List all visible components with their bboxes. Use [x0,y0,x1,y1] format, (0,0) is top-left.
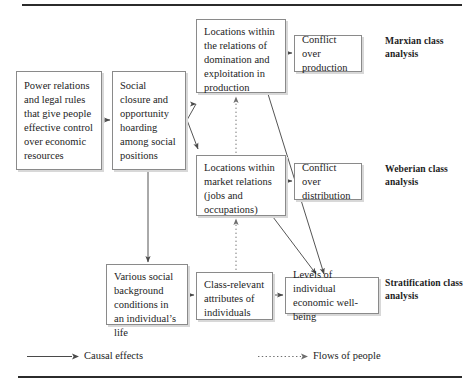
legend-label-flows-of-people: Flows of people [313,349,381,363]
bottom-divider [18,376,462,378]
box-conflict-over-production: Conflict over production [294,35,362,72]
box-conflict-over-distribution: Conflict over distribution [294,163,362,200]
arrow-closure-to-production [187,104,196,120]
legend-label-causal-effects: Causal effects [84,349,143,363]
box-locations-production: Locations within the relations of domina… [196,19,286,93]
box-class-relevant-attributes: Class-relevant attributes of individuals [196,272,273,320]
box-power-relations: Power relations and legal rules that giv… [16,71,102,170]
arrow-market-to-wellbeing [273,217,316,274]
arrow-closure-to-market [187,120,198,149]
side-label-marxian: Marxian class analysis [385,35,465,60]
legend-causal-arrow [27,352,81,361]
box-levels-of-wellbeing: Levels of individual economic well-being [285,277,379,314]
legend-flows-arrow [258,352,310,361]
box-locations-market: Locations within market relations (jobs … [196,155,286,216]
box-social-closure: Social closure and opportunity hoarding … [112,71,186,170]
figure-container: Power relations and legal rules that giv… [0,0,468,391]
side-label-weberian: Weberian class analysis [385,163,465,188]
side-label-stratification: Stratification class analysis [385,277,465,302]
box-social-background: Various social background conditions in … [106,264,188,325]
